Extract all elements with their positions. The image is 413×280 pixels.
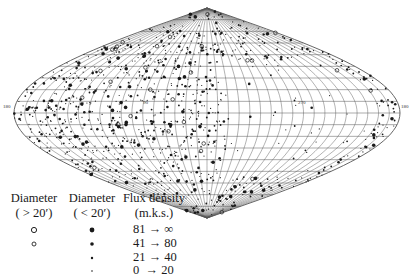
label-left-180: 180 (3, 104, 11, 109)
filled-dot-medium-icon (90, 242, 94, 246)
label-right-180: 180 (401, 104, 409, 109)
legend-flux-row-4: 0 → 20 (133, 263, 174, 278)
filled-dot-tiny-icon (91, 270, 93, 272)
legend-flux-row-1: 81 → ∞ (133, 222, 173, 237)
legend-flux-row-2: 41 → 80 (133, 236, 177, 251)
label-270: 270 (298, 100, 306, 105)
open-circle-small-icon (32, 242, 36, 246)
filled-dot-small-icon (91, 257, 93, 259)
filled-dot-large-icon (90, 228, 95, 233)
open-circle-large-icon (31, 227, 36, 232)
radio-sources (13, 10, 397, 215)
label-90: 90 (143, 100, 148, 105)
legend: Diameter ( > 20′) Diameter ( < 20′) Flux… (4, 191, 194, 279)
